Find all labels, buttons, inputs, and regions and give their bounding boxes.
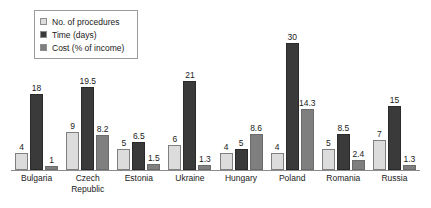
bar — [301, 109, 314, 170]
bar-value-label: 4 — [19, 143, 24, 152]
bar — [117, 149, 130, 170]
bar-value-label: 8.2 — [97, 125, 109, 134]
bar — [373, 140, 386, 170]
bar — [250, 134, 263, 170]
bar-group-bars: 458.6 — [216, 18, 267, 170]
bar-group: 6211.3 — [164, 18, 215, 170]
bar — [66, 132, 79, 170]
bar-value-label: 6.5 — [133, 132, 145, 141]
x-axis-category-label: Hungary — [216, 173, 267, 184]
bar-group: 43014.3 — [267, 18, 318, 170]
bar — [271, 153, 284, 170]
legend-item-no-of-procedures: No. of procedures — [40, 15, 132, 28]
legend-item-cost-pct-income: Cost (% of income) — [40, 41, 132, 54]
bar-value-label: 1.3 — [199, 155, 211, 164]
bar — [81, 87, 94, 170]
bar-column: 21 — [183, 18, 196, 170]
x-axis-category-label: Estonia — [113, 173, 164, 184]
bar-value-label: 14.3 — [299, 99, 316, 108]
bar-value-label: 5 — [121, 139, 126, 148]
bar-group-bars: 7151.3 — [369, 18, 420, 170]
bar-column: 1.3 — [198, 18, 211, 170]
bar — [168, 145, 181, 170]
bar-value-label: 8.6 — [250, 124, 262, 133]
bar-column: 1.5 — [147, 18, 160, 170]
bar-value-label: 9 — [70, 122, 75, 131]
bar-group: 7151.3 — [369, 18, 420, 170]
bar-column: 4 — [271, 18, 284, 170]
bar-value-label: 1 — [49, 156, 54, 165]
bar — [352, 160, 365, 170]
bar-value-label: 30 — [287, 33, 296, 42]
bar — [235, 149, 248, 170]
bar — [132, 142, 145, 170]
bar — [96, 135, 109, 170]
bar-group-bars: 43014.3 — [267, 18, 318, 170]
bar-group: 58.52.4 — [318, 18, 369, 170]
bar — [30, 94, 43, 170]
bar-group-bars: 58.52.4 — [318, 18, 369, 170]
legend-swatch-icon-0 — [40, 18, 47, 25]
bar-column: 8.6 — [250, 18, 263, 170]
bar-value-label: 5 — [326, 139, 331, 148]
legend-label-2: Cost (% of income) — [52, 43, 124, 53]
bar — [322, 149, 335, 170]
x-axis-category-label: Poland — [267, 173, 318, 184]
legend-label-1: Time (days) — [52, 30, 97, 40]
bar-value-label: 7 — [377, 130, 382, 139]
bar — [286, 43, 299, 170]
bar-column: 5 — [235, 18, 248, 170]
x-axis-category-label: Russia — [369, 173, 420, 184]
bar-group-bars: 6211.3 — [164, 18, 215, 170]
legend-item-time-days: Time (days) — [40, 28, 132, 41]
legend-swatch-icon-1 — [40, 31, 47, 38]
bar-column: 15 — [388, 18, 401, 170]
legend-label-0: No. of procedures — [52, 17, 120, 27]
x-axis-category-label: Romania — [318, 173, 369, 184]
legend-swatch-icon-2 — [40, 44, 47, 51]
x-axis-category-label: Bulgaria — [11, 173, 62, 184]
bar-column: 8.5 — [337, 18, 350, 170]
bar-value-label: 4 — [224, 143, 229, 152]
bar-value-label: 6 — [173, 135, 178, 144]
bar-column: 2.4 — [352, 18, 365, 170]
bar-value-label: 1.5 — [148, 154, 160, 163]
x-axis-line — [11, 170, 420, 171]
bar — [183, 81, 196, 170]
bar — [388, 106, 401, 170]
bar — [220, 153, 233, 170]
bar-value-label: 18 — [32, 84, 41, 93]
bar-column: 4 — [15, 18, 28, 170]
bar-column: 6 — [168, 18, 181, 170]
bar-value-label: 1.3 — [404, 155, 416, 164]
bar-column: 7 — [373, 18, 386, 170]
bar-value-label: 5 — [239, 139, 244, 148]
bar-value-label: 19.5 — [79, 77, 96, 86]
bar-column: 4 — [220, 18, 233, 170]
bar-value-label: 8.5 — [337, 124, 349, 133]
bar-group: 458.6 — [216, 18, 267, 170]
x-axis-category-label: Ukraine — [164, 173, 215, 184]
bar-column: 1.3 — [403, 18, 416, 170]
bar — [337, 134, 350, 170]
bar-value-label: 2.4 — [352, 150, 364, 159]
chart-legend: No. of procedures Time (days) Cost (% of… — [34, 10, 138, 59]
bar-value-label: 21 — [185, 71, 194, 80]
bar-column: 5 — [322, 18, 335, 170]
bar-chart: No. of procedures Time (days) Cost (% of… — [0, 0, 431, 208]
x-axis-category-label: CzechRepublic — [62, 173, 113, 194]
bar — [15, 153, 28, 170]
bar-value-label: 4 — [275, 143, 280, 152]
bar-column: 14.3 — [301, 18, 314, 170]
bar-value-label: 15 — [390, 96, 399, 105]
bar-column: 30 — [286, 18, 299, 170]
